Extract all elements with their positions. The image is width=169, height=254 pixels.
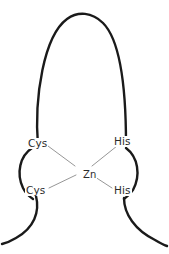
residue-label-cys-upper-left: Cys (27, 138, 48, 149)
left-chain-tail (2, 196, 37, 244)
zinc-finger-diagram: Cys His Cys His Zn (0, 0, 169, 254)
right-chain-tail (124, 198, 167, 246)
residue-label-cys-lower-left: Cys (25, 185, 46, 196)
residue-label-his-lower-right: His (113, 185, 132, 196)
coordination-bond-cys-upper (48, 146, 75, 166)
protein-backbone-arch (37, 14, 126, 147)
coordination-bond-cys-lower (49, 175, 76, 188)
coordination-bond-his-upper (92, 146, 117, 166)
residue-label-his-upper-right: His (113, 136, 132, 147)
metal-label-zinc: Zn (82, 170, 97, 180)
diagram-canvas (0, 0, 169, 254)
